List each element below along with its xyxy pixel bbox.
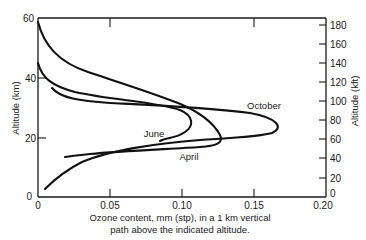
- kft-tick-60: 60: [330, 134, 342, 145]
- y-tick-0: 0: [26, 191, 32, 202]
- label-june: June: [144, 128, 165, 139]
- kft-tick-100: 100: [330, 96, 347, 107]
- left-y-tick-labels: 0 20 40 60: [23, 13, 37, 202]
- y-tick-20: 20: [25, 133, 37, 144]
- kft-tick-140: 140: [330, 58, 347, 69]
- kft-tick-40: 40: [330, 153, 342, 164]
- x-axis-title-line1: Ozone content, mm (stp), in a 1 km verti…: [89, 212, 270, 223]
- y-axis-title-left: Altitude (km): [10, 81, 21, 134]
- y-axis-title-right: Altitude (kft): [349, 76, 360, 127]
- y-tick-40: 40: [25, 73, 37, 84]
- kft-tick-160: 160: [330, 39, 347, 50]
- kft-tick-80: 80: [330, 115, 342, 126]
- x-tick-0.20: 0.20: [313, 200, 333, 211]
- kft-tick-180: 180: [330, 20, 347, 31]
- y-tick-60: 60: [23, 13, 35, 24]
- right-y-ticks: [319, 25, 326, 178]
- label-october: October: [247, 100, 281, 111]
- x-tick-0.15: 0.15: [244, 200, 264, 211]
- x-tick-labels: 0 0.05 0.10 0.15 0.20: [35, 200, 333, 211]
- series-curves: [38, 22, 278, 189]
- label-april: April: [179, 151, 198, 162]
- ozone-altitude-chart: 0 0.05 0.10 0.15 0.20 0 20 40 60 Altitud…: [0, 0, 366, 240]
- x-tick-0.10: 0.10: [172, 200, 192, 211]
- left-y-ticks: [38, 78, 46, 138]
- june-curve: [38, 63, 191, 141]
- x-axis-title-line2: path above the indicated altitude.: [110, 224, 249, 235]
- x-tick-0: 0: [35, 200, 41, 211]
- x-tick-0.05: 0.05: [100, 200, 120, 211]
- kft-tick-0: 0: [330, 188, 336, 199]
- kft-tick-20: 20: [330, 173, 342, 184]
- kft-tick-120: 120: [330, 77, 347, 88]
- right-y-tick-labels: 0 20 40 60 80 100 120 140 160 180: [330, 20, 347, 199]
